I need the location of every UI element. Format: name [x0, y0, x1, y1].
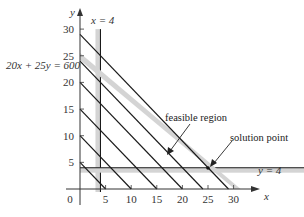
x-tick-label: 15 [151, 193, 163, 205]
x-tick-label: 25 [203, 193, 215, 205]
y-tick-label: 10 [63, 130, 75, 142]
linear-programming-diagram: 05101520253051015202530 y x x = 4 y = 4 … [0, 0, 304, 217]
x-tick-label: 20 [177, 193, 189, 205]
objective-line-5 [80, 162, 106, 189]
axes [66, 8, 260, 205]
x-tick-label: 10 [126, 193, 138, 205]
objective-line-15 [80, 109, 157, 189]
x-eq-4-label: x = 4 [90, 14, 115, 26]
annotation-arrows [167, 124, 232, 167]
y-tick-label: 5 [69, 156, 75, 168]
solution-point-arrow [214, 141, 232, 163]
objective-line-10 [80, 136, 131, 189]
x-axis-arrowhead-icon [251, 186, 260, 192]
constraint-equation-label: 20x + 25y = 600 [6, 59, 81, 71]
feasible-region-label: feasible region [165, 112, 228, 123]
x-axis-label: x [263, 190, 269, 202]
solution-point-marker [206, 166, 210, 170]
y-eq-4-label: y = 4 [257, 164, 282, 176]
y-tick-label: 15 [63, 103, 75, 115]
x-tick-label: 0 [67, 193, 73, 205]
solution-point-label: solution point [230, 132, 288, 143]
y-tick-label: 30 [63, 23, 75, 35]
x-tick-label: 30 [228, 193, 240, 205]
y-axis-arrowhead-icon [77, 8, 83, 16]
y-tick-label: 20 [63, 76, 75, 88]
y-axis-label: y [69, 6, 75, 18]
feasible-region-arrowhead-icon [167, 147, 174, 155]
x-tick-label: 5 [103, 193, 109, 205]
